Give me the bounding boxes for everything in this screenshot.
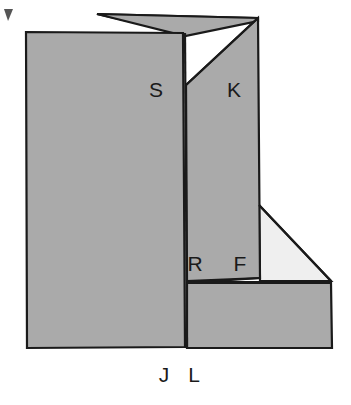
- solid-figure-svg: S K R F J L: [0, 0, 351, 405]
- edge-label-j: J: [159, 363, 170, 386]
- face-label-k: K: [227, 78, 241, 101]
- edge-label-f: F: [234, 252, 247, 275]
- edge-label-r: R: [187, 252, 202, 275]
- base-front-face: [187, 283, 332, 348]
- edge-label-l: L: [188, 363, 200, 386]
- face-label-s: S: [149, 78, 163, 101]
- figure-canvas: S K R F J L: [0, 0, 351, 405]
